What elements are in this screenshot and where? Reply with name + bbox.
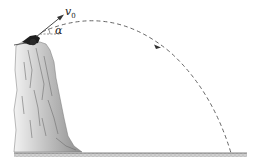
velocity-label: v0 <box>65 5 76 20</box>
trajectory-direction-arrow <box>154 45 161 50</box>
ground <box>14 153 247 157</box>
trajectory-path <box>42 21 231 153</box>
cliff <box>14 41 82 152</box>
projectile-diagram <box>0 0 259 165</box>
angle-label: α <box>55 24 62 37</box>
